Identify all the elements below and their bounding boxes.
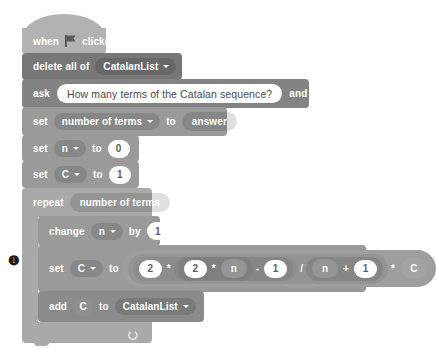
- block-set-n[interactable]: set n to 0: [22, 135, 139, 162]
- block-change-n-by[interactable]: change n by 1: [38, 216, 160, 246]
- repeat-label: repeat: [30, 197, 67, 208]
- variable-dropdown-number-of-terms[interactable]: number of terms: [54, 113, 160, 130]
- green-flag-icon: [65, 35, 76, 47]
- chevron-down-icon: [110, 230, 116, 233]
- value-input-change-amount[interactable]: 1: [147, 222, 169, 240]
- set-label: set: [30, 116, 51, 127]
- chevron-down-icon: [74, 173, 80, 176]
- reporter-answer[interactable]: answer: [182, 112, 237, 131]
- reporter-variable-c[interactable]: C: [73, 297, 93, 316]
- chevron-down-icon: [183, 305, 189, 308]
- list-dropdown-value: CatalanList: [103, 61, 158, 72]
- operator-multiply-inner[interactable]: 2 * 2 * n - 1: [133, 257, 297, 281]
- block-when-flag-clicked[interactable]: when clicked: [22, 14, 106, 54]
- when-label: when: [30, 36, 62, 47]
- hat-body: when clicked: [22, 28, 106, 54]
- to-label: to: [96, 301, 112, 312]
- variable-dropdown-n[interactable]: n: [54, 140, 86, 157]
- block-add-to-list[interactable]: add C to CatalanList: [38, 291, 204, 322]
- repeat-header[interactable]: repeat number of terms: [22, 188, 152, 217]
- variable-dropdown-value: C: [78, 263, 85, 274]
- list-dropdown-catalanlist[interactable]: CatalanList: [95, 58, 176, 75]
- clicked-label: clicked: [79, 36, 120, 47]
- operand-variable-c[interactable]: C: [401, 258, 427, 279]
- block-set-c-formula[interactable]: set C to 2 *: [38, 245, 366, 292]
- list-dropdown-value: CatalanList: [123, 301, 178, 312]
- chevron-down-icon: [73, 147, 79, 150]
- operator-subtract[interactable]: 2 * n - 1: [174, 257, 293, 281]
- repeat-footer: [22, 322, 152, 343]
- value-input-c[interactable]: 1: [109, 166, 131, 184]
- operand-number[interactable]: 2: [184, 260, 207, 278]
- block-delete-all-of[interactable]: delete all of CatalanList: [22, 53, 182, 80]
- operand-number[interactable]: 1: [354, 260, 377, 278]
- chevron-down-icon: [90, 267, 96, 270]
- set-label: set: [46, 263, 67, 274]
- change-label: change: [46, 226, 88, 237]
- variable-dropdown-c[interactable]: C: [70, 260, 103, 277]
- operand-number[interactable]: 1: [264, 260, 287, 278]
- operator-multiply-outer[interactable]: 2 * 2 * n - 1: [122, 250, 436, 287]
- block-set-number-of-terms[interactable]: set number of terms to answer: [22, 107, 227, 136]
- to-label: to: [163, 116, 179, 127]
- variable-dropdown-c[interactable]: C: [54, 166, 87, 183]
- operator-symbol-divide: /: [297, 264, 306, 274]
- variable-dropdown-n[interactable]: n: [91, 223, 123, 240]
- set-label: set: [30, 169, 51, 180]
- c-block-arm: [22, 217, 38, 322]
- to-label: to: [106, 263, 122, 274]
- step-marker: ❶: [8, 255, 17, 266]
- variable-dropdown-value: C: [62, 169, 69, 180]
- by-label: by: [126, 226, 144, 237]
- ask-label: ask: [30, 88, 53, 99]
- operand-variable-n[interactable]: n: [312, 259, 338, 278]
- to-label: to: [90, 169, 106, 180]
- operator-divide[interactable]: 2 * 2 * n - 1: [128, 254, 388, 284]
- operator-add[interactable]: n + 1: [306, 257, 383, 281]
- operator-symbol-multiply: *: [164, 264, 174, 274]
- reporter-number-of-terms[interactable]: number of terms: [70, 193, 170, 212]
- repeat-mouth: change n by 1 set C to: [22, 217, 366, 322]
- loop-arrow-icon: [126, 327, 138, 339]
- repeat-body: change n by 1 set C to: [38, 217, 366, 322]
- to-label: to: [89, 143, 105, 154]
- variable-dropdown-value: n: [62, 143, 68, 154]
- variable-dropdown-value: n: [99, 226, 105, 237]
- operand-number[interactable]: 2: [139, 260, 162, 278]
- operand-variable-n[interactable]: n: [221, 259, 247, 278]
- value-input-n[interactable]: 0: [108, 140, 130, 158]
- operator-symbol-subtract: -: [253, 264, 262, 274]
- add-label: add: [46, 301, 70, 312]
- set-label: set: [30, 143, 51, 154]
- chevron-down-icon: [147, 120, 153, 123]
- chevron-down-icon: [163, 65, 169, 68]
- operator-symbol-multiply: *: [388, 264, 398, 274]
- block-script: when clicked delete all of CatalanList a…: [22, 14, 366, 343]
- variable-dropdown-value: number of terms: [62, 116, 142, 127]
- operator-symbol-multiply: *: [209, 264, 219, 274]
- block-repeat[interactable]: repeat number of terms change n by 1: [22, 188, 366, 343]
- block-ask-and-wait[interactable]: ask How many terms of the Catalan sequen…: [22, 79, 309, 108]
- operator-multiply-2n[interactable]: 2 * n: [178, 257, 253, 281]
- delete-all-of-label: delete all of: [30, 61, 92, 72]
- list-dropdown-catalanlist[interactable]: CatalanList: [115, 298, 196, 315]
- block-set-c[interactable]: set C to 1: [22, 161, 139, 188]
- operator-symbol-add: +: [340, 264, 352, 274]
- and-wait-label: and wait: [286, 88, 333, 99]
- ask-prompt-input[interactable]: How many terms of the Catalan sequence?: [57, 84, 282, 103]
